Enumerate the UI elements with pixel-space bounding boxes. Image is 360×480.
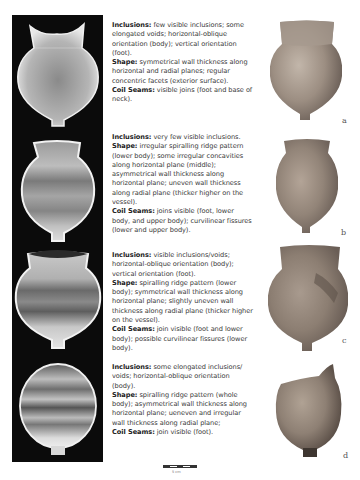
description-b: Inclusions: very few visible inclusions.… — [112, 133, 254, 235]
shape-heading: Shape: — [112, 279, 137, 287]
description-a: Inclusions: few visible inclusions; some… — [112, 21, 254, 105]
photo-vessel-c — [268, 243, 348, 355]
xray-vessel-d — [12, 360, 103, 460]
scale-bar-label: 5 cm — [172, 470, 181, 474]
figure-label-c: c — [342, 336, 346, 345]
inclusions-heading: Inclusions: — [112, 21, 151, 29]
coil-seams-heading: Coil Seams: — [112, 428, 155, 436]
xray-vessel-a — [12, 20, 103, 130]
figure-label-b: b — [341, 228, 346, 237]
figure-label-a: a — [342, 116, 347, 125]
shape-text: irregular spiralling ridge pattern (lowe… — [112, 142, 243, 206]
figure-label-d: d — [343, 451, 348, 460]
shape-heading: Shape: — [112, 142, 137, 150]
coil-seams-heading: Coil Seams: — [112, 325, 155, 333]
inclusions-text: very few visible inclusions. — [151, 133, 240, 141]
xray-vessel-b — [12, 133, 103, 248]
photo-vessel-a — [270, 18, 342, 122]
coil-seams-text: join visible (foot). — [155, 428, 213, 436]
photo-vessel-d — [275, 362, 345, 462]
shape-heading: Shape: — [112, 391, 137, 399]
inclusions-heading: Inclusions: — [112, 133, 151, 141]
xray-vessel-c — [12, 250, 103, 355]
shape-heading: Shape: — [112, 58, 137, 66]
coil-seams-heading: Coil Seams: — [112, 86, 155, 94]
description-c: Inclusions: visible inclusions/voids; ho… — [112, 251, 254, 353]
inclusions-heading: Inclusions: — [112, 363, 151, 371]
description-d: Inclusions: some elongated inclusions/ v… — [112, 363, 254, 437]
scale-bar — [163, 465, 197, 468]
coil-seams-heading: Coil Seams: — [112, 207, 155, 215]
inclusions-heading: Inclusions: — [112, 251, 151, 259]
xray-panel — [12, 15, 103, 462]
photo-vessel-b — [276, 137, 338, 237]
